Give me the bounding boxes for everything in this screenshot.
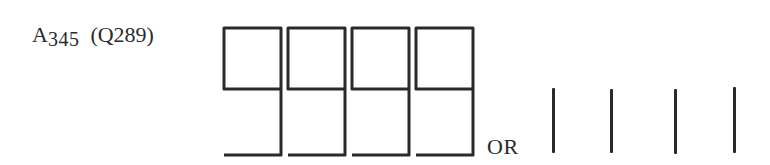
- item-question-ref: (Q289): [90, 22, 154, 47]
- nine-glyph-3: [349, 26, 411, 158]
- item-code-label: A345 (Q289): [32, 22, 154, 48]
- nine-shape-icon: [349, 26, 411, 158]
- or-separator: OR: [487, 134, 519, 160]
- one-bar-4: [733, 87, 736, 153]
- nine-glyph-2: [285, 26, 347, 158]
- nine-glyph-4: [413, 26, 475, 158]
- item-letter: A: [32, 22, 48, 47]
- nine-shape-icon: [221, 26, 283, 158]
- one-bar-2: [610, 89, 613, 153]
- one-bar-3: [674, 89, 677, 154]
- nine-shape-icon: [413, 26, 475, 158]
- item-number: 345: [48, 28, 80, 50]
- nine-shape-icon: [285, 26, 347, 158]
- nine-glyph-1: [221, 26, 283, 158]
- one-bar-1: [552, 88, 555, 153]
